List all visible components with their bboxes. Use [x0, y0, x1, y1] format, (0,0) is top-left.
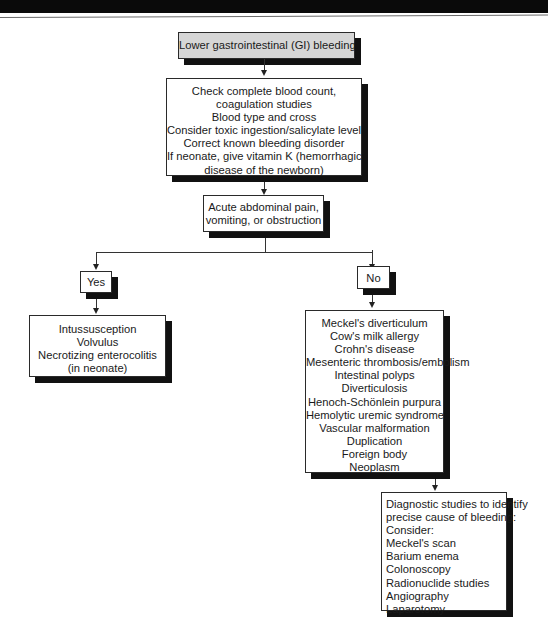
diagnosis-item: Hemolytic uremic syndrome	[306, 409, 443, 422]
arrow-down-icon	[261, 70, 267, 76]
workup-line: If neonate, give vitamin K (hemorrhagic	[167, 150, 361, 163]
scanned-header-band	[0, 0, 548, 13]
workup-line: Blood type and cross	[167, 111, 361, 124]
diagnosis-item: Neoplasm	[306, 461, 443, 474]
workup-line: disease of the newborn)	[167, 164, 361, 177]
workup-line: Correct known bleeding disorder	[167, 137, 361, 150]
diagnosis-item: Intussusception	[30, 323, 165, 336]
decision-box-acute-abdomen: Acute abdominal pain, vomiting, or obstr…	[203, 195, 324, 232]
studies-intro-line: precise cause of bleeding:	[386, 511, 506, 524]
study-item: Radionuclide studies	[386, 577, 506, 590]
start-box-lower-gi-bleeding: Lower gastrointestinal (GI) bleeding	[178, 32, 355, 59]
arrow-down-icon	[432, 485, 438, 491]
diagnosis-item: Diverticulosis	[306, 382, 443, 395]
workup-line: coagulation studies	[167, 98, 361, 111]
header-rule	[0, 15, 548, 18]
diagnosis-item: Cow's milk allergy	[306, 330, 443, 343]
diagnosis-item: Necrotizing enterocolitis	[30, 349, 165, 362]
study-item: Barium enema	[386, 550, 506, 563]
workup-line: Check complete blood count,	[167, 85, 361, 98]
decision-line: vomiting, or obstruction	[204, 214, 323, 227]
no-label-box: No	[357, 266, 390, 289]
arrow-down-icon	[93, 264, 99, 270]
no-label: No	[358, 272, 389, 285]
no-diagnoses-box: Meckel's diverticulum Cow's milk allergy…	[305, 310, 444, 473]
study-item: Angiography	[386, 590, 506, 603]
initial-workup-box: Check complete blood count, coagulation …	[166, 78, 362, 176]
diagnosis-item: Duplication	[306, 435, 443, 448]
diagnosis-item: Mesenteric thrombosis/embolism	[306, 356, 443, 369]
yes-label-box: Yes	[80, 271, 112, 293]
diagnosis-item: Intestinal polyps	[306, 369, 443, 382]
study-item: Laparotomy	[386, 603, 506, 616]
studies-list: Meckel's scan Barium enema Colonoscopy R…	[386, 537, 506, 616]
connector-decision-down	[265, 238, 266, 252]
diagnosis-item: Vascular malformation	[306, 422, 443, 435]
arrow-down-icon	[369, 302, 375, 308]
diagnosis-item: Crohn's disease	[306, 343, 443, 356]
start-box-label: Lower gastrointestinal (GI) bleeding	[179, 39, 354, 52]
study-item: Meckel's scan	[386, 537, 506, 550]
diagnostic-studies-box: Diagnostic studies to identify precise c…	[381, 492, 507, 611]
yes-diagnoses-list: Intussusception Volvulus Necrotizing ent…	[30, 323, 165, 375]
diagnosis-item: Foreign body	[306, 448, 443, 461]
workup-line: Consider toxic ingestion/salicylate leve…	[167, 124, 361, 137]
diagnosis-item: Meckel's diverticulum	[306, 317, 443, 330]
decision-line: Acute abdominal pain,	[204, 201, 323, 214]
no-diagnoses-list: Meckel's diverticulum Cow's milk allergy…	[306, 317, 443, 474]
studies-intro-line: Diagnostic studies to identify	[386, 498, 506, 511]
diagnosis-item: (in neonate)	[30, 362, 165, 375]
diagnosis-item: Volvulus	[30, 336, 165, 349]
arrow-down-icon	[93, 308, 99, 314]
studies-intro-line: Consider:	[386, 524, 506, 537]
yes-label: Yes	[81, 276, 111, 289]
diagnosis-item: Henoch-Schönlein purpura	[306, 396, 443, 409]
study-item: Colonoscopy	[386, 563, 506, 576]
yes-diagnoses-box: Intussusception Volvulus Necrotizing ent…	[29, 315, 166, 377]
connector-branch-horizontal	[96, 252, 373, 253]
